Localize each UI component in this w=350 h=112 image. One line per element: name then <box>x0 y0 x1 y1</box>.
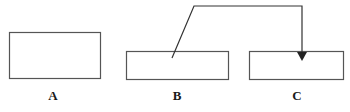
rectangle-a[interactable] <box>10 33 101 79</box>
connector-line-b-to-c[interactable] <box>172 6 302 58</box>
diagram-canvas: A B C <box>0 0 350 112</box>
rectangle-c[interactable] <box>250 52 344 80</box>
label-a: A <box>33 89 73 102</box>
label-b: B <box>157 89 197 102</box>
rectangle-b[interactable] <box>127 52 229 80</box>
label-c: C <box>277 89 317 102</box>
